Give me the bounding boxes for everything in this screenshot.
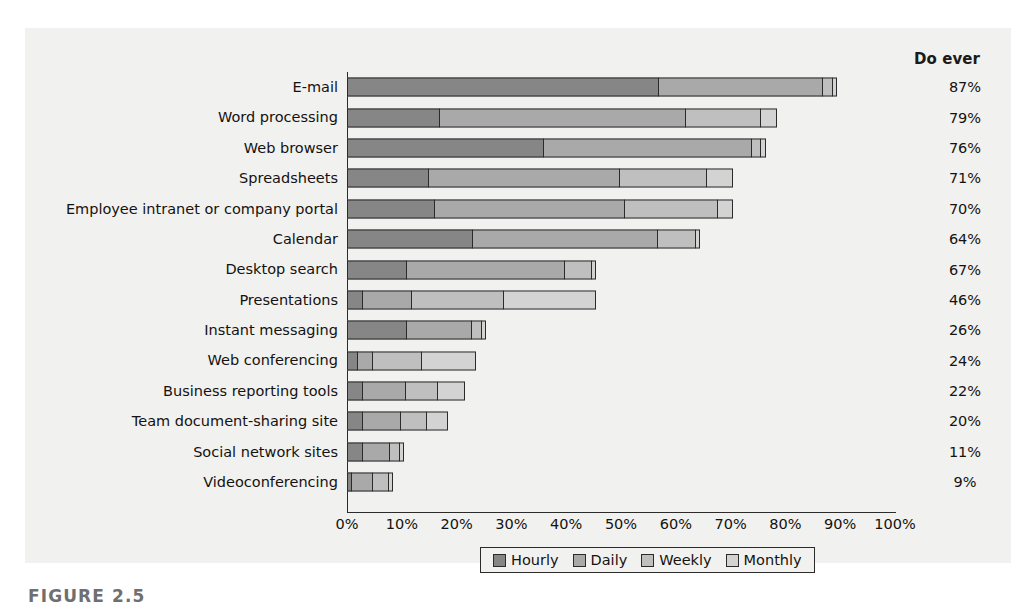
bar-segment-daily	[351, 473, 373, 492]
bar-segment-hourly	[347, 169, 429, 188]
bar-row: Employee intranet or company portal70%	[25, 194, 1011, 224]
x-axis-tick-labels: 0%10%20%30%40%50%60%70%80%90%100%	[347, 516, 896, 538]
bar-segment-daily	[406, 321, 472, 340]
category-label: Word processing	[25, 110, 347, 125]
bar-segment-weekly	[685, 108, 762, 127]
do-ever-value: 79%	[895, 110, 1011, 126]
stacked-bar	[347, 169, 733, 188]
do-ever-value: 71%	[895, 170, 1011, 186]
bar-segment-daily	[434, 199, 626, 218]
bar-segment-daily	[362, 412, 400, 431]
stacked-bar	[347, 382, 465, 401]
legend-item-daily[interactable]: Daily	[573, 552, 628, 568]
bar-row: E-mail87%	[25, 72, 1011, 102]
bar-segment-hourly	[347, 230, 473, 249]
bar-row: Social network sites11%	[25, 437, 1011, 467]
bar-segment-daily	[472, 230, 658, 249]
category-label: Team document-sharing site	[25, 414, 347, 429]
x-tick-label: 0%	[335, 516, 358, 532]
bar-row: Instant messaging26%	[25, 315, 1011, 345]
bar-segment-weekly	[657, 230, 695, 249]
bar-row: Videoconferencing9%	[25, 467, 1011, 497]
bar-segment-weekly	[372, 351, 421, 370]
bar-plot-cell	[347, 224, 895, 254]
bar-segment-weekly	[411, 290, 504, 309]
bar-segment-daily	[428, 169, 620, 188]
bar-segment-weekly	[619, 169, 707, 188]
legend-item-weekly[interactable]: Weekly	[641, 552, 711, 568]
bar-segment-daily	[543, 138, 751, 157]
figure-panel: Do ever E-mail87%Word processing79%Web b…	[25, 28, 1011, 563]
bar-segment-monthly	[706, 169, 733, 188]
bar-row: Presentations46%	[25, 285, 1011, 315]
stacked-bar	[347, 412, 448, 431]
legend-item-monthly[interactable]: Monthly	[726, 552, 802, 568]
category-label: Desktop search	[25, 262, 347, 277]
x-tick-label: 100%	[874, 516, 915, 532]
do-ever-value: 24%	[895, 353, 1011, 369]
bar-segment-monthly	[695, 230, 700, 249]
bar-segment-weekly	[564, 260, 591, 279]
bar-plot-cell	[347, 437, 895, 467]
bar-segment-hourly	[347, 199, 435, 218]
do-ever-value: 9%	[895, 474, 1011, 490]
bar-segment-monthly	[832, 78, 837, 97]
bar-plot-cell	[347, 254, 895, 284]
bar-row: Spreadsheets71%	[25, 163, 1011, 193]
legend-swatch-icon	[493, 554, 506, 567]
bar-row: Web conferencing24%	[25, 346, 1011, 376]
bar-segment-monthly	[717, 199, 733, 218]
legend-label: Weekly	[659, 552, 711, 568]
bar-segment-weekly	[624, 199, 717, 218]
bar-plot-cell	[347, 72, 895, 102]
bar-row: Business reporting tools22%	[25, 376, 1011, 406]
x-axis-line	[347, 512, 896, 513]
stacked-bar	[347, 321, 486, 340]
x-tick-label: 70%	[714, 516, 746, 532]
legend-label: Daily	[591, 552, 628, 568]
category-label: Web conferencing	[25, 353, 347, 368]
bar-plot-cell	[347, 406, 895, 436]
bar-segment-hourly	[347, 138, 544, 157]
bar-segment-weekly	[405, 382, 438, 401]
do-ever-value: 76%	[895, 140, 1011, 156]
do-ever-value: 11%	[895, 444, 1011, 460]
bar-segment-monthly	[503, 290, 596, 309]
bar-row: Desktop search67%	[25, 254, 1011, 284]
bar-segment-hourly	[347, 108, 440, 127]
bar-segment-monthly	[426, 412, 448, 431]
x-tick-label: 10%	[386, 516, 418, 532]
legend-item-hourly[interactable]: Hourly	[493, 552, 559, 568]
bar-segment-monthly	[421, 351, 476, 370]
x-tick-label: 60%	[660, 516, 692, 532]
do-ever-value: 46%	[895, 292, 1011, 308]
bar-segment-daily	[362, 442, 389, 461]
bar-segment-monthly	[481, 321, 486, 340]
bar-segment-daily	[362, 290, 411, 309]
bar-segment-daily	[357, 351, 373, 370]
category-label: E-mail	[25, 80, 347, 95]
bar-segment-weekly	[372, 473, 388, 492]
bar-segment-daily	[439, 108, 686, 127]
bar-segment-monthly	[437, 382, 464, 401]
bar-plot-cell	[347, 315, 895, 345]
x-tick-label: 30%	[495, 516, 527, 532]
category-label: Spreadsheets	[25, 171, 347, 186]
chart-legend: HourlyDailyWeeklyMonthly	[480, 547, 815, 573]
category-label: Calendar	[25, 232, 347, 247]
bar-plot-cell	[347, 194, 895, 224]
legend-swatch-icon	[726, 554, 739, 567]
bar-segment-hourly	[347, 412, 363, 431]
bar-row: Calendar64%	[25, 224, 1011, 254]
bar-segment-monthly	[760, 108, 776, 127]
category-label: Instant messaging	[25, 323, 347, 338]
bar-segment-hourly	[347, 382, 363, 401]
bar-segment-daily	[658, 78, 822, 97]
stacked-bar	[347, 199, 733, 218]
bar-segment-hourly	[347, 78, 659, 97]
bar-segment-monthly	[591, 260, 596, 279]
bar-plot-cell	[347, 102, 895, 132]
bar-plot-cell	[347, 285, 895, 315]
category-label: Presentations	[25, 293, 347, 308]
legend-swatch-icon	[641, 554, 654, 567]
